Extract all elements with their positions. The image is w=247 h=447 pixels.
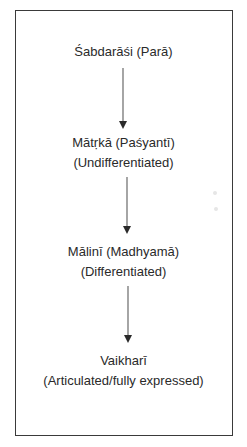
- node-title: Vaikharī: [0, 351, 247, 371]
- node-shabdarashi: Śabdarāśi (Parā): [0, 42, 247, 62]
- arrow-down-icon: [122, 177, 132, 235]
- node-title: Śabdarāśi (Parā): [0, 42, 247, 62]
- node-subtitle: (Articulated/fully expressed): [0, 371, 247, 391]
- scan-artifact: [214, 207, 218, 211]
- arrow-down-icon: [123, 286, 133, 344]
- node-subtitle: (Differentiated): [0, 262, 247, 282]
- scan-artifact: [213, 191, 217, 195]
- node-title: Mālinī (Madhyamā): [0, 242, 247, 262]
- node-matrka: Mātṛkā (Paśyantī) (Undifferentiated): [0, 133, 247, 173]
- node-vaikhari: Vaikharī (Articulated/fully expressed): [0, 351, 247, 391]
- node-subtitle: (Undifferentiated): [0, 153, 247, 173]
- node-malini: Mālinī (Madhyamā) (Differentiated): [0, 242, 247, 282]
- arrow-down-icon: [118, 68, 128, 130]
- node-title: Mātṛkā (Paśyantī): [0, 133, 247, 153]
